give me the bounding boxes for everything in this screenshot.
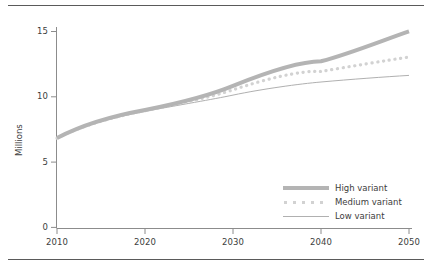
x-tick-label-2030: 2030 [213,237,253,247]
x-tick-label-2040: 2040 [301,237,341,247]
y-axis-ticks [51,32,57,228]
y-tick-label-15: 15 [22,26,48,36]
legend-label-low-variant: Low variant [335,210,384,222]
line-chart-canvas [0,0,432,270]
chart-page: 15 10 5 0 2010 2020 2030 2040 2050 Milli… [0,0,432,270]
legend-item-low-variant: Low variant [283,209,423,223]
x-tick-label-2020: 2020 [125,237,165,247]
x-tick-label-2010: 2010 [37,237,77,247]
legend-item-high-variant: High variant [283,181,423,195]
legend-label-medium-variant: Medium variant [335,196,402,208]
y-axis-title: Millions [14,124,24,156]
legend-swatch-medium-variant [283,196,329,208]
legend-item-medium-variant: Medium variant [283,195,423,209]
series-line-medium-variant [57,57,409,138]
legend-label-high-variant: High variant [335,182,387,194]
legend-swatch-low-variant [283,210,329,222]
chart-legend: High variant Medium variant Low variant [283,181,423,223]
y-tick-label-5: 5 [22,157,48,167]
x-tick-label-2050: 2050 [389,237,429,247]
x-axis-ticks [57,229,409,235]
series-line-high-variant [57,31,409,138]
y-tick-label-10: 10 [22,91,48,101]
y-tick-label-0: 0 [22,222,48,232]
legend-swatch-high-variant [283,182,329,194]
